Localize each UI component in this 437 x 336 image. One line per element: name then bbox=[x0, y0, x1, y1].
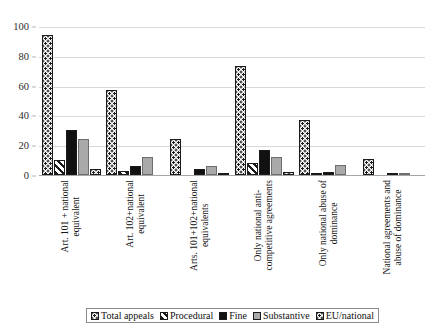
x-axis-label-cell: Only national anti- competitive agreemen… bbox=[232, 180, 296, 292]
bar-group bbox=[296, 27, 360, 175]
bar bbox=[299, 120, 310, 175]
bar-group bbox=[361, 27, 425, 175]
bar bbox=[90, 169, 101, 175]
legend-label: Total appeals bbox=[101, 311, 154, 321]
bar bbox=[130, 166, 141, 175]
y-axis-tick-label: 40 bbox=[19, 111, 30, 122]
legend-swatch-icon bbox=[160, 312, 168, 320]
x-axis-label-cell: Art. 102+national equivalent bbox=[103, 180, 167, 292]
x-axis-label: National agreements and abuse of dominan… bbox=[382, 180, 404, 274]
bar-group bbox=[39, 27, 103, 175]
bar bbox=[387, 173, 398, 175]
x-axis-label-cell: Art. 101 + national equivalent bbox=[39, 180, 103, 292]
y-axis-tick-mark bbox=[32, 116, 36, 117]
y-axis-tick-label: 0 bbox=[24, 171, 29, 182]
bar-group bbox=[232, 27, 296, 175]
bar bbox=[311, 173, 322, 175]
y-axis-tick-label: 100 bbox=[13, 22, 29, 33]
x-axis-label-cell: National agreements and abuse of dominan… bbox=[361, 180, 425, 292]
bar bbox=[218, 173, 229, 175]
bar-group bbox=[103, 27, 167, 175]
legend-label: EU/national bbox=[326, 311, 374, 321]
y-axis-tick-label: 80 bbox=[19, 52, 30, 63]
x-axis-label: Art. 101 + national equivalent bbox=[60, 180, 82, 252]
legend-item[interactable]: EU/national bbox=[316, 311, 374, 321]
x-axis-line bbox=[39, 175, 425, 176]
bar-groups bbox=[39, 27, 425, 175]
bar bbox=[399, 173, 410, 175]
y-axis: 020406080100 bbox=[0, 27, 36, 177]
legend-item[interactable]: Substantive bbox=[253, 311, 310, 321]
x-axis-label: Art. 102+national equivalent bbox=[125, 180, 147, 248]
x-axis-label-cell: Only national abuse of dominance bbox=[296, 180, 360, 292]
bar bbox=[323, 172, 334, 175]
y-axis-tick-label: 20 bbox=[19, 141, 30, 152]
bar bbox=[54, 160, 65, 175]
bar bbox=[271, 157, 282, 175]
x-axis-label: Only national abuse of dominance bbox=[318, 180, 340, 266]
plot-area bbox=[39, 27, 425, 176]
bar-chart: 020406080100 Art. 101 + national equival… bbox=[0, 0, 437, 336]
legend-label: Procedural bbox=[170, 311, 213, 321]
legend-item[interactable]: Procedural bbox=[160, 311, 213, 321]
bar bbox=[106, 90, 117, 175]
y-axis-tick-mark bbox=[32, 56, 36, 57]
legend-swatch-icon bbox=[219, 312, 227, 320]
x-axis-label: Only national anti- competitive agreemen… bbox=[253, 180, 275, 270]
legend-label: Substantive bbox=[263, 311, 310, 321]
bar bbox=[335, 165, 346, 175]
bar bbox=[259, 150, 270, 175]
y-axis-tick-mark bbox=[32, 146, 36, 147]
bar bbox=[118, 171, 129, 175]
x-axis-labels: Art. 101 + national equivalentArt. 102+n… bbox=[39, 180, 425, 292]
bar bbox=[42, 35, 53, 175]
legend-swatch-icon bbox=[316, 312, 324, 320]
bar bbox=[66, 130, 77, 175]
bar bbox=[247, 163, 258, 175]
x-axis-label: Arts. 101+102+national equivalents bbox=[189, 180, 211, 271]
bar bbox=[194, 169, 205, 175]
bar bbox=[206, 166, 217, 175]
bar bbox=[283, 172, 294, 175]
bar-group bbox=[168, 27, 232, 175]
legend-label: Fine bbox=[229, 311, 247, 321]
bar bbox=[170, 139, 181, 175]
legend-swatch-icon bbox=[253, 312, 261, 320]
x-axis-label-cell: Arts. 101+102+national equivalents bbox=[168, 180, 232, 292]
y-axis-tick-mark bbox=[32, 27, 36, 28]
bar bbox=[142, 157, 153, 175]
y-axis-tick-mark bbox=[32, 86, 36, 87]
y-axis-tick-mark bbox=[32, 176, 36, 177]
bar bbox=[78, 139, 89, 175]
chart-legend: Total appealsProceduralFineSubstantiveEU… bbox=[86, 308, 379, 323]
legend-item[interactable]: Fine bbox=[219, 311, 247, 321]
legend-item[interactable]: Total appeals bbox=[91, 311, 154, 321]
y-axis-tick-label: 60 bbox=[19, 81, 30, 92]
bar bbox=[363, 159, 374, 175]
legend-swatch-icon bbox=[91, 312, 99, 320]
bar bbox=[235, 66, 246, 175]
